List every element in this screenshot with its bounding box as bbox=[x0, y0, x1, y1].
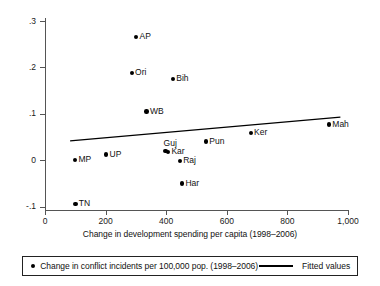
scatter-point-label: Ker bbox=[254, 128, 267, 137]
scatter-point bbox=[73, 158, 77, 162]
scatter-point-label: WB bbox=[150, 107, 164, 116]
y-tick bbox=[40, 114, 45, 115]
scatter-point-label: MP bbox=[78, 155, 91, 164]
scatter-point bbox=[166, 150, 170, 154]
y-tick bbox=[40, 67, 45, 68]
plot-area: -.10.1.2.3 02004006008001,000 APOriBihWB… bbox=[0, 0, 380, 240]
scatter-point-label: Har bbox=[185, 179, 199, 188]
y-axis-line bbox=[45, 18, 46, 210]
legend-label-fitted: Fitted values bbox=[302, 261, 350, 271]
scatter-point bbox=[73, 202, 77, 206]
scatter-point-label: Raj bbox=[183, 156, 196, 165]
y-tick bbox=[40, 207, 45, 208]
scatter-point-label: AP bbox=[140, 32, 151, 41]
x-tick-label: 1,000 bbox=[328, 217, 368, 226]
y-tick-label: -.1 bbox=[2, 202, 36, 211]
y-tick-label: .3 bbox=[2, 17, 36, 26]
x-tick bbox=[106, 210, 107, 215]
legend-marker-line bbox=[259, 265, 293, 266]
scatter-point-label: UP bbox=[110, 150, 122, 159]
scatter-point bbox=[178, 159, 182, 163]
x-tick bbox=[227, 210, 228, 215]
scatter-point bbox=[171, 77, 175, 81]
scatter-point bbox=[104, 152, 108, 156]
scatter-point-label: Ori bbox=[135, 68, 146, 77]
scatter-point bbox=[204, 139, 208, 143]
scatter-point bbox=[249, 131, 253, 135]
y-tick-label: 0 bbox=[2, 156, 36, 165]
x-tick-label: 0 bbox=[25, 217, 65, 226]
chart-legend: Change in conflict incidents per 100,000… bbox=[22, 256, 358, 276]
scatter-point bbox=[327, 122, 331, 126]
scatter-point bbox=[144, 109, 148, 113]
x-tick-label: 200 bbox=[86, 217, 126, 226]
scatter-point bbox=[180, 181, 184, 185]
scatter-point-label: Bih bbox=[176, 74, 188, 83]
legend-marker-dot bbox=[31, 264, 35, 268]
x-tick bbox=[45, 210, 46, 215]
x-tick-label: 600 bbox=[207, 217, 247, 226]
y-tick-label: .2 bbox=[2, 63, 36, 72]
fitted-values-line bbox=[0, 0, 380, 240]
x-axis-line bbox=[45, 210, 348, 211]
x-tick bbox=[348, 210, 349, 215]
chart-figure: -.10.1.2.3 02004006008001,000 APOriBihWB… bbox=[0, 0, 380, 286]
scatter-point-label: Pun bbox=[209, 137, 224, 146]
x-axis-title: Change in development spending per capit… bbox=[0, 229, 380, 239]
scatter-point-label: Mah bbox=[332, 120, 349, 129]
x-tick bbox=[166, 210, 167, 215]
x-tick bbox=[287, 210, 288, 215]
scatter-point bbox=[134, 35, 138, 39]
y-tick bbox=[40, 160, 45, 161]
legend-label-scatter: Change in conflict incidents per 100,000… bbox=[40, 261, 258, 271]
y-tick-label: .1 bbox=[2, 109, 36, 118]
scatter-point bbox=[130, 71, 134, 75]
x-tick-label: 400 bbox=[146, 217, 186, 226]
scatter-point-label: TN bbox=[79, 199, 90, 208]
y-tick bbox=[40, 21, 45, 22]
x-tick-label: 800 bbox=[267, 217, 307, 226]
